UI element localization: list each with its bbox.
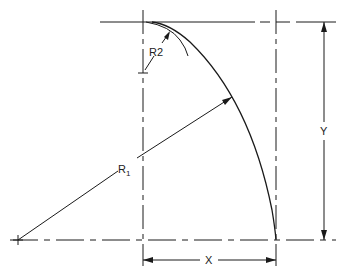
drawing-canvas: R1 R2 X Y bbox=[0, 0, 345, 279]
technical-drawing: R1 R2 X Y bbox=[0, 0, 345, 279]
r1-leader-line bbox=[18, 171, 118, 240]
r2-label: R2 bbox=[149, 46, 163, 58]
y-label: Y bbox=[320, 125, 328, 137]
x-arrow-right-icon bbox=[266, 257, 276, 263]
r2-leader-line bbox=[145, 56, 154, 70]
y-arrow-top-icon bbox=[321, 22, 327, 32]
r1-label: R1 bbox=[118, 163, 131, 178]
r1-leader-line-2 bbox=[137, 97, 232, 158]
x-arrow-left-icon bbox=[143, 257, 153, 263]
r1-arc bbox=[152, 22, 276, 240]
x-label: X bbox=[205, 254, 213, 266]
y-arrow-bottom-icon bbox=[321, 230, 327, 240]
r1-arrowhead-icon bbox=[222, 97, 232, 105]
